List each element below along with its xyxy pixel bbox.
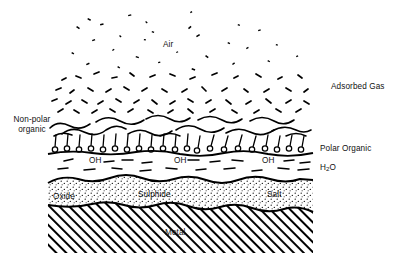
label-non-polar-organic-line1: Non-polar [4,115,60,125]
label-oxide: Oxide [53,192,75,202]
label-air: Air [163,40,173,50]
label-metal: Metal [165,228,186,238]
label-adsorbed-gas: Adsorbed Gas [331,82,385,92]
label-non-polar-organic-line2: organic [4,125,60,135]
non-polar-organic-chains [50,116,311,137]
label-hydroxyl-3: OH [262,156,274,166]
label-hydroxyl-2: OH [174,156,186,166]
diagram-canvas: Air Adsorbed Gas Non-polar organic Polar… [0,0,395,265]
label-water-o: O [330,163,336,172]
surfactant-monolayer [52,134,304,153]
label-water: H2O [320,163,336,174]
adsorbed-gas-dash-field [52,72,309,113]
label-sulphide: Sulphide [138,190,171,200]
label-salt: Salt [267,190,282,200]
air-speck-field [71,11,298,71]
label-hydroxyl-1: OH [89,156,101,166]
label-non-polar-organic: Non-polar organic [4,115,60,135]
label-polar-organic: Polar Organic [320,144,371,154]
